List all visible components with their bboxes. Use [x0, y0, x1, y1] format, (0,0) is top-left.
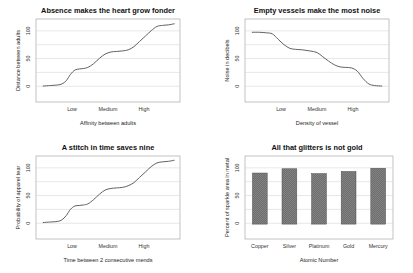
y-tick-100: 100	[234, 26, 240, 35]
y-tick-50: 50	[25, 56, 31, 62]
x-tick-silver: Silver	[282, 243, 295, 249]
y-tick-labels: 100 50 0	[25, 163, 31, 224]
x-tick-copper: Copper	[251, 243, 269, 249]
x-axis-label: Density of vessel	[295, 120, 337, 126]
x-tick-high: High	[347, 106, 358, 112]
bar-platinum	[311, 173, 326, 224]
x-tick-mercury: Mercury	[368, 243, 387, 249]
bar-gold	[341, 171, 356, 224]
y-tick-labels: 100 50 0	[234, 163, 240, 224]
chart-title: A stitch in time saves nine	[62, 143, 155, 152]
y-tick-100: 100	[234, 163, 240, 172]
y-tick-50: 50	[234, 192, 240, 198]
bar-tick-labels: CopperSilverPlatinumGoldMercury	[251, 243, 388, 249]
plot-area	[36, 156, 180, 239]
x-axis-label: Time between 2 consecutive mends	[63, 257, 152, 263]
y-tick-50: 50	[25, 192, 31, 198]
x-tick-platinum: Platinum	[308, 243, 329, 249]
chart-panel-glitters: All that glitters is not gold 100 50 0 P…	[207, 137, 413, 273]
chart-title: All that glitters is not gold	[271, 143, 363, 152]
bar-copper	[252, 173, 267, 224]
x-tick-low: Low	[67, 106, 77, 112]
bar-mercury	[370, 168, 385, 224]
x-tick-low: Low	[67, 243, 77, 249]
chart-panel-stitch: A stitch in time saves nine 100 50 0 Pro…	[0, 137, 207, 273]
plot-area	[245, 19, 389, 102]
x-tick-low: Low	[276, 106, 286, 112]
chart-absence-svg: Absence makes the heart grow fonder 100 …	[0, 0, 207, 137]
plot-area	[36, 19, 180, 102]
x-tick-medium: Medium	[99, 106, 118, 112]
y-tick-0: 0	[25, 85, 31, 88]
x-tick-labels: Low Medium High	[67, 106, 149, 112]
y-tick-50: 50	[234, 56, 240, 62]
y-axis-label: Probability of apparel tear	[15, 165, 21, 229]
y-tick-0: 0	[234, 221, 240, 224]
bar-silver	[282, 168, 297, 223]
chart-title: Absence makes the heart grow fonder	[41, 6, 175, 15]
x-axis-label: Affinity between adults	[80, 120, 136, 126]
y-axis-label: Percent of sparkle area in metal	[224, 158, 230, 237]
y-axis-label: Noise in decibels	[224, 39, 230, 81]
x-tick-high: High	[139, 106, 150, 112]
chart-stitch-svg: A stitch in time saves nine 100 50 0 Pro…	[0, 137, 207, 273]
y-axis-label: Distance between adults	[15, 30, 21, 91]
y-tick-0: 0	[25, 221, 31, 224]
x-tick-medium: Medium	[99, 243, 118, 249]
chart-title: Empty vessels make the most noise	[253, 6, 380, 15]
y-tick-labels: 100 50 0	[25, 26, 31, 87]
y-tick-0: 0	[234, 85, 240, 88]
x-tick-medium: Medium	[307, 106, 326, 112]
figure-canvas: Absence makes the heart grow fonder 100 …	[0, 0, 413, 273]
y-tick-labels: 100 50 0	[234, 26, 240, 87]
x-tick-labels: Low Medium High	[276, 106, 358, 112]
chart-panel-vessels: Empty vessels make the most noise 100 50…	[207, 0, 413, 137]
x-tick-labels: Low Medium High	[67, 243, 149, 249]
x-tick-gold: Gold	[342, 243, 353, 249]
y-tick-100: 100	[25, 26, 31, 35]
x-axis-label: Atomic Number	[299, 257, 338, 263]
x-tick-high: High	[139, 243, 150, 249]
y-tick-100: 100	[25, 163, 31, 172]
chart-glitters-svg: All that glitters is not gold 100 50 0 P…	[207, 137, 413, 273]
chart-panel-absence: Absence makes the heart grow fonder 100 …	[0, 0, 207, 137]
chart-vessels-svg: Empty vessels make the most noise 100 50…	[207, 0, 413, 137]
